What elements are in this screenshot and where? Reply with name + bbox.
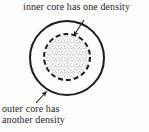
outer-core-label-line2: another density	[2, 115, 65, 126]
inner-core-fill	[45, 35, 89, 79]
outer-core-label: outer core has another density	[2, 104, 65, 125]
inner-core-label: inner core has one density	[23, 2, 130, 13]
core-density-diagram: inner core has one density outer core ha…	[0, 0, 149, 132]
arrow-up-right-icon	[36, 92, 47, 104]
outer-core-label-line1: outer core has	[2, 103, 59, 114]
